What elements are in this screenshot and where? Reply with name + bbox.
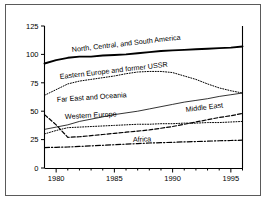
x-tick-label: 1985 (106, 174, 123, 183)
y-tick-label: 100 (26, 50, 39, 59)
x-tick-label: 1995 (223, 174, 240, 183)
y-tick-label: 0 (34, 164, 38, 173)
figure-container: 0255075100125 1980198519901995 North, Ce… (0, 0, 269, 205)
y-tick-label: 50 (30, 107, 38, 116)
series-label-eastern-europe-former-ussr: Eastern Europe and former USSR (59, 60, 168, 81)
y-tick-label: 75 (30, 79, 38, 88)
y-tick-label: 25 (30, 135, 38, 144)
y-tick-label: 125 (26, 22, 39, 31)
series-label-western-europe: Western Europe (65, 109, 117, 121)
line-chart: 0255075100125 1980198519901995 North, Ce… (0, 0, 269, 205)
x-tick-label: 1990 (164, 174, 181, 183)
y-axis-ticks: 0255075100125 (26, 22, 45, 173)
series-label-africa: Africa (133, 134, 152, 144)
x-axis-ticks: 1980198519901995 (48, 168, 243, 183)
x-tick-label: 1980 (48, 174, 65, 183)
series-label-far-east-and-oceania: Far East and Oceania (57, 90, 127, 104)
series-label-middle-east: Middle East (185, 100, 223, 114)
